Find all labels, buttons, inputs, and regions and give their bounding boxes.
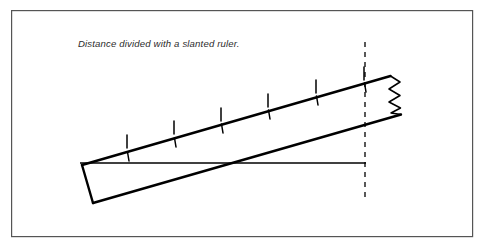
figure-container: Distance divided with a slanted ruler. — [0, 0, 485, 249]
technical-illustration: Distance divided with a slanted ruler. — [0, 0, 485, 249]
figure-caption: Distance divided with a slanted ruler. — [78, 38, 240, 49]
